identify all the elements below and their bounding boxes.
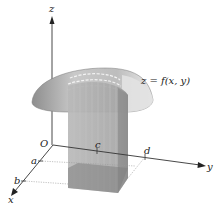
tick-label-c: c	[95, 139, 101, 150]
y-arrow-icon	[198, 162, 207, 168]
origin-label: O	[40, 138, 48, 149]
tick-label-a: a	[31, 155, 37, 166]
volume-column	[68, 80, 128, 193]
z-axis-label: z	[48, 3, 55, 14]
double-integral-diagram: z y	[0, 0, 215, 205]
y-axis-label: y	[206, 161, 213, 172]
surface-label: z = f(x, y)	[140, 75, 190, 86]
tick-label-d: d	[144, 145, 150, 156]
z-axis: z	[48, 3, 55, 145]
tick-label-b: b	[14, 175, 20, 186]
x-axis-label: x	[8, 194, 14, 205]
z-arrow-icon	[50, 16, 55, 24]
